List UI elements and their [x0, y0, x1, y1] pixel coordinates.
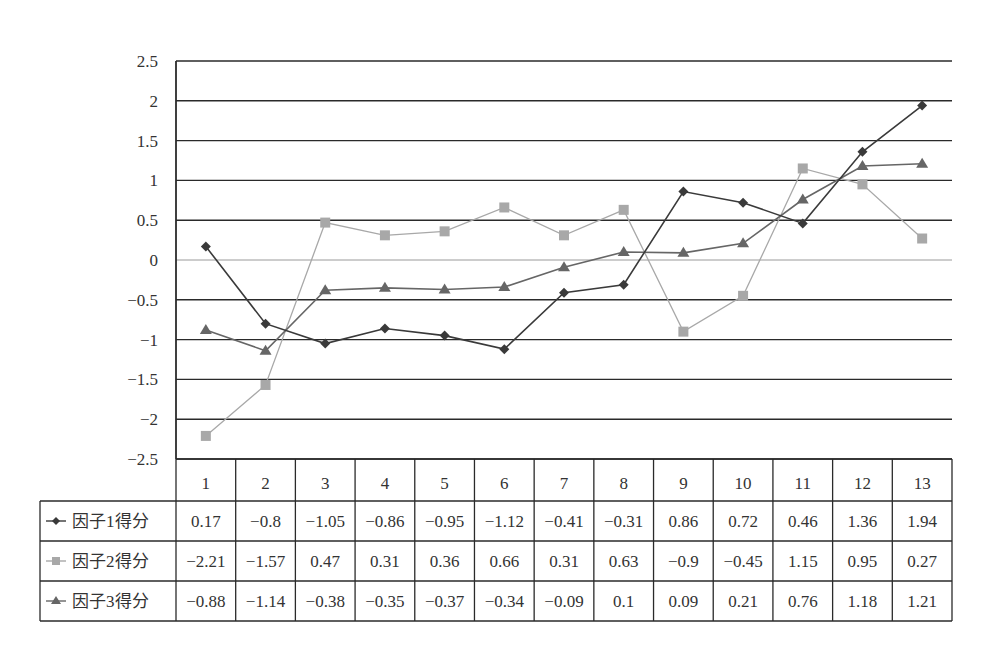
- square-marker-icon: [320, 218, 330, 228]
- y-tick-label: 2: [150, 92, 159, 111]
- square-marker-icon: [261, 380, 271, 390]
- category-label: 10: [735, 474, 752, 493]
- category-label: 4: [381, 474, 390, 493]
- square-marker-icon: [917, 234, 927, 244]
- table-cell: 0.31: [549, 552, 579, 571]
- y-tick-label: 0: [150, 251, 159, 270]
- y-tick-label: 1.5: [137, 132, 158, 151]
- table-cell: −1.05: [306, 512, 345, 531]
- series-lines: [200, 101, 928, 441]
- square-marker-icon: [52, 557, 60, 565]
- square-marker-icon: [619, 205, 629, 215]
- category-label: 9: [679, 474, 688, 493]
- table-cell: 0.47: [310, 552, 340, 571]
- table-cell: −0.9: [668, 552, 699, 571]
- legend-entry-3: 因子3得分: [46, 592, 149, 611]
- legend-label: 因子2得分: [72, 552, 149, 571]
- table-cell: 1.21: [907, 592, 937, 611]
- y-tick-label: −2: [140, 410, 158, 429]
- table-cell: 0.86: [669, 512, 699, 531]
- category-label: 1: [202, 474, 211, 493]
- table-cell: 0.72: [728, 512, 758, 531]
- table-cell: 0.21: [728, 592, 758, 611]
- y-axis: 2.521.510.50−0.5−1−1.5−2−2.5: [127, 52, 176, 469]
- table-cell: −0.34: [485, 592, 525, 611]
- diamond-marker-icon: [619, 280, 629, 290]
- square-marker-icon: [857, 179, 867, 189]
- square-marker-icon: [738, 291, 748, 301]
- series-line: [206, 106, 922, 350]
- triangle-marker-icon: [856, 160, 868, 170]
- triangle-marker-icon: [319, 284, 331, 294]
- diamond-marker-icon: [380, 323, 390, 333]
- square-marker-icon: [559, 230, 569, 240]
- table-cell: 0.63: [609, 552, 639, 571]
- table-cell: 1.18: [848, 592, 878, 611]
- series-1: [201, 101, 927, 355]
- y-tick-label: −2.5: [127, 450, 158, 469]
- category-label: 3: [321, 474, 330, 493]
- table-cell: −0.31: [604, 512, 643, 531]
- y-tick-label: 1: [150, 171, 159, 190]
- y-tick-label: −1: [140, 331, 158, 350]
- triangle-marker-icon: [797, 194, 809, 204]
- table-cell: −1.57: [246, 552, 286, 571]
- triangle-marker-icon: [379, 282, 391, 292]
- table-cell: 0.95: [848, 552, 878, 571]
- table-cell: 0.36: [430, 552, 460, 571]
- table-cell: −0.41: [544, 512, 583, 531]
- table-cell: −0.95: [425, 512, 464, 531]
- gridlines: [176, 61, 952, 459]
- table-cell: 0.09: [669, 592, 699, 611]
- category-label: 12: [854, 474, 871, 493]
- y-tick-label: −1.5: [127, 370, 158, 389]
- table-cell: −0.86: [365, 512, 404, 531]
- square-marker-icon: [499, 202, 509, 212]
- table-cell: 0.27: [907, 552, 937, 571]
- triangle-marker-icon: [618, 246, 630, 256]
- table-cell: −0.09: [544, 592, 583, 611]
- table-cell: 0.66: [489, 552, 519, 571]
- category-label: 7: [560, 474, 569, 493]
- category-label: 13: [914, 474, 931, 493]
- table-cell: −0.35: [365, 592, 404, 611]
- triangle-marker-icon: [200, 324, 212, 334]
- triangle-marker-icon: [439, 283, 451, 293]
- category-label: 6: [500, 474, 509, 493]
- y-tick-label: 0.5: [137, 211, 158, 230]
- table-cell: −1.14: [246, 592, 286, 611]
- diamond-marker-icon: [678, 187, 688, 197]
- y-tick-label: 2.5: [137, 52, 158, 71]
- factor-score-line-chart: 2.521.510.50−0.5−1−1.5−2−2.5 12345678910…: [0, 0, 987, 659]
- series-3: [200, 158, 928, 355]
- triangle-marker-icon: [737, 237, 749, 247]
- category-label: 5: [440, 474, 449, 493]
- table-cell: 0.1: [613, 592, 634, 611]
- triangle-marker-icon: [51, 596, 61, 604]
- y-tick-label: −0.5: [127, 291, 158, 310]
- table-cell: 1.15: [788, 552, 818, 571]
- table-cell: −0.37: [425, 592, 465, 611]
- category-label: 11: [795, 474, 811, 493]
- table-cell: −1.12: [485, 512, 524, 531]
- series-line: [206, 164, 922, 351]
- table-cell: 0.76: [788, 592, 818, 611]
- legend-entry-1: 因子1得分: [46, 512, 149, 531]
- square-marker-icon: [201, 431, 211, 441]
- category-label: 2: [261, 474, 270, 493]
- table-cell: 1.94: [907, 512, 937, 531]
- square-marker-icon: [440, 226, 450, 236]
- table-cell: −0.38: [306, 592, 345, 611]
- table-cell: 1.36: [848, 512, 878, 531]
- legend-label: 因子1得分: [72, 512, 149, 531]
- square-marker-icon: [678, 327, 688, 337]
- diamond-marker-icon: [52, 517, 60, 525]
- category-label: 8: [619, 474, 628, 493]
- table-cell: −2.21: [186, 552, 225, 571]
- square-marker-icon: [798, 163, 808, 173]
- table-cell: −0.88: [186, 592, 225, 611]
- table-cell: 0.46: [788, 512, 818, 531]
- triangle-marker-icon: [916, 158, 928, 168]
- table-cell: −0.45: [723, 552, 762, 571]
- legend-label: 因子3得分: [72, 592, 149, 611]
